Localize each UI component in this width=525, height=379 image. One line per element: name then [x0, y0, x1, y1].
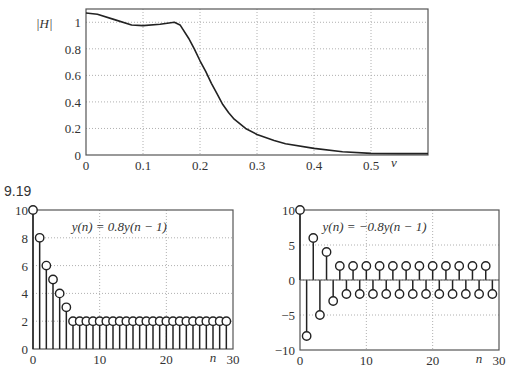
stem-marker	[302, 332, 310, 340]
stem-marker	[29, 206, 37, 214]
y-tick-label: 0	[75, 148, 82, 163]
stem-marker	[488, 290, 496, 298]
stem-marker	[362, 262, 370, 270]
stem-marker	[455, 262, 463, 270]
x-axis-label: n	[210, 350, 217, 365]
stem-marker	[475, 290, 483, 298]
stem-marker	[62, 303, 70, 311]
figure-label: 9.19	[4, 183, 31, 199]
y-tick-label: 4	[22, 286, 29, 301]
x-tick-label: 0.1	[135, 158, 151, 173]
y-axis-label: |H|	[36, 16, 53, 31]
figure-canvas: 00.10.20.30.40.500.20.40.60.81v|H|010203…	[0, 0, 525, 379]
stem-marker	[356, 290, 364, 298]
stem-marker	[482, 262, 490, 270]
stem-marker	[342, 290, 350, 298]
stem-marker	[382, 290, 390, 298]
y-tick-label: 8	[22, 231, 29, 246]
stem-marker	[462, 290, 470, 298]
stem-marker	[35, 234, 43, 242]
equation-annotation: y(n) = −0.8y(n − 1)	[321, 219, 427, 234]
y-tick-label: 1	[75, 15, 82, 30]
y-tick-label: 5	[289, 238, 296, 253]
stem-marker	[42, 261, 50, 269]
plot-0: 00.10.20.30.40.500.20.40.60.81v|H|	[36, 9, 428, 173]
stem-marker	[336, 262, 344, 270]
stem-marker	[428, 262, 436, 270]
stem-marker	[322, 248, 330, 256]
x-tick-label: 0	[83, 158, 90, 173]
plot-2: 0102030−10−50510ny(n) = −0.8y(n − 1)	[275, 203, 506, 368]
x-axis-label: n	[476, 351, 483, 366]
stem-marker	[402, 262, 410, 270]
stem-marker	[422, 290, 430, 298]
x-tick-label: 0	[297, 353, 304, 368]
x-tick-label: 0.4	[306, 158, 323, 173]
x-tick-label: 30	[493, 353, 506, 368]
stem-marker	[442, 262, 450, 270]
stem-marker	[222, 317, 230, 325]
y-tick-label: 0.8	[65, 42, 81, 57]
stem-marker	[55, 289, 63, 297]
stem-marker	[369, 290, 377, 298]
x-tick-label: 0	[30, 352, 37, 367]
x-tick-label: 10	[360, 353, 373, 368]
stem-marker	[468, 262, 476, 270]
stem-marker	[316, 311, 324, 319]
x-tick-label: 0.5	[363, 158, 379, 173]
x-tick-label: 30	[227, 352, 240, 367]
stem-marker	[415, 262, 423, 270]
x-tick-label: 0.2	[192, 158, 208, 173]
y-tick-label: −5	[281, 308, 295, 323]
x-tick-label: 20	[426, 353, 439, 368]
stem-marker	[409, 290, 417, 298]
equation-annotation: y(n) = 0.8y(n − 1)	[70, 219, 167, 234]
plot-1: 01020300246810ny(n) = 0.8y(n − 1)	[15, 203, 240, 367]
stem-marker	[375, 262, 383, 270]
stem-marker	[296, 206, 304, 214]
y-tick-label: 6	[22, 259, 29, 274]
stem-marker	[349, 262, 357, 270]
stem-marker	[329, 297, 337, 305]
stem-marker	[448, 290, 456, 298]
stem-marker	[395, 290, 403, 298]
y-tick-label: 0.6	[65, 68, 82, 83]
y-tick-label: 0.4	[65, 95, 82, 110]
x-tick-label: 10	[93, 352, 106, 367]
y-tick-label: 10	[15, 203, 28, 218]
y-tick-label: −10	[275, 343, 295, 358]
y-tick-label: 10	[282, 203, 295, 218]
y-tick-label: 0	[289, 273, 296, 288]
x-tick-label: 0.3	[249, 158, 265, 173]
y-tick-label: 2	[22, 314, 29, 329]
stem-marker	[49, 275, 57, 283]
y-tick-label: 0	[22, 342, 29, 357]
x-axis-label: v	[391, 155, 397, 170]
stem-marker	[435, 290, 443, 298]
stem-marker	[389, 262, 397, 270]
y-tick-label: 0.2	[65, 121, 81, 136]
x-tick-label: 20	[160, 352, 173, 367]
stem-marker	[309, 234, 317, 242]
